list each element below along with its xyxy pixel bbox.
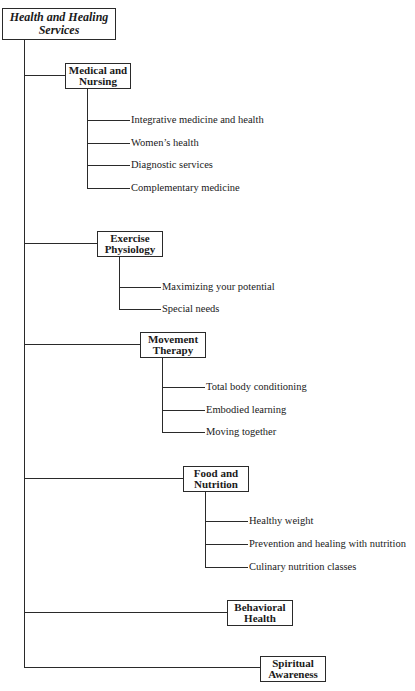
leaf-healthy-weight: Healthy weight: [249, 515, 313, 527]
leaf-connector: [87, 120, 130, 121]
category-node-behavioral-health: Behavioral Health: [227, 600, 293, 626]
category-label-line2: Nutrition: [194, 479, 238, 491]
category-node-food-and-nutrition: Food and Nutrition: [183, 466, 249, 492]
category-label-line2: Health: [234, 613, 285, 625]
leaf-prevention-and-healing-with-nutrition: Prevention and healing with nutrition: [249, 538, 406, 550]
leaf-culinary-nutrition-classes: Culinary nutrition classes: [249, 561, 356, 573]
connector-spiritual-awareness: [24, 667, 260, 668]
leaf-moving-together: Moving together: [206, 426, 276, 438]
connector-movement-therapy: [24, 344, 140, 345]
leaf-womens-health: Women’s health: [131, 137, 199, 149]
connector-food-and-nutrition: [24, 478, 183, 479]
leaf-connector: [119, 309, 161, 310]
subtrunk-movement-therapy: [162, 358, 163, 433]
connector-medical-and-nursing: [24, 75, 65, 76]
subtrunk-food-and-nutrition: [205, 492, 206, 568]
leaf-connector: [87, 188, 130, 189]
category-label-line2: Awareness: [268, 669, 318, 681]
root-node-health-and-healing-services: Health and Healing Services: [2, 8, 116, 40]
leaf-embodied-learning: Embodied learning: [206, 404, 286, 416]
leaf-connector: [205, 544, 248, 545]
leaf-connector: [87, 143, 130, 144]
category-node-spiritual-awareness: Spiritual Awareness: [260, 656, 326, 682]
main-trunk-connector: [24, 40, 25, 668]
category-label-line2: Nursing: [69, 76, 127, 88]
category-label-line2: Physiology: [105, 244, 156, 256]
subtrunk-medical-and-nursing: [87, 89, 88, 189]
leaf-connector: [162, 432, 205, 433]
leaf-diagnostic-services: Diagnostic services: [131, 159, 213, 171]
category-node-exercise-physiology: Exercise Physiology: [97, 231, 163, 257]
subtrunk-exercise-physiology: [119, 257, 120, 310]
root-label-line2: Services: [10, 24, 109, 37]
leaf-connector: [205, 521, 248, 522]
category-node-movement-therapy: Movement Therapy: [140, 332, 206, 358]
leaf-connector: [162, 387, 205, 388]
connector-behavioral-health: [24, 612, 227, 613]
leaf-maximizing-your-potential: Maximizing your potential: [162, 281, 275, 293]
leaf-integrative-medicine-and-health: Integrative medicine and health: [131, 114, 264, 126]
connector-exercise-physiology: [24, 243, 97, 244]
category-node-medical-and-nursing: Medical and Nursing: [65, 63, 131, 89]
category-label-line2: Therapy: [148, 345, 198, 357]
leaf-connector: [119, 287, 161, 288]
leaf-special-needs: Special needs: [162, 303, 219, 315]
leaf-complementary-medicine: Complementary medicine: [131, 182, 240, 194]
leaf-connector: [205, 567, 248, 568]
leaf-total-body-conditioning: Total body conditioning: [206, 381, 307, 393]
leaf-connector: [87, 165, 130, 166]
leaf-connector: [162, 410, 205, 411]
